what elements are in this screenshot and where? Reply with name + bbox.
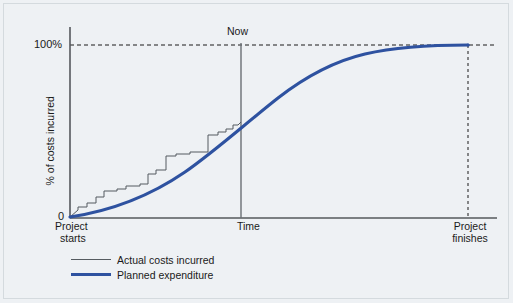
now-annotation-label: Now [227,26,248,38]
x-axis-start-label-line2: starts [55,233,88,245]
planned-curve-endpoint [466,43,469,46]
legend-swatch-actual-costs-icon [71,255,111,265]
legend-label-actual-costs: Actual costs incurred [117,254,214,266]
x-axis-finish-label-line2: finishes [444,233,496,245]
actual-costs-line [70,122,241,217]
chart-legend: Actual costs incurred Planned expenditur… [71,252,214,282]
y-axis-title: % of costs incurred [45,81,57,201]
legend-item-actual-costs: Actual costs incurred [71,252,214,267]
x-axis-title: Time [237,221,260,233]
x-axis-finish-label-line1: Project [454,220,487,232]
legend-swatch-planned-expenditure-icon [71,270,111,280]
x-axis-start-label-line1: Project [55,220,88,232]
y-axis-tick-100: 100% [34,39,62,51]
planned-expenditure-curve [70,45,468,217]
x-axis-finish-label: Project finishes [444,221,496,244]
legend-item-planned-expenditure: Planned expenditure [71,267,214,282]
x-axis-start-label: Project starts [55,221,88,244]
legend-label-planned-expenditure: Planned expenditure [117,269,213,281]
chart-figure: 100% 0 % of costs incurred Now Time Proj… [0,0,513,303]
